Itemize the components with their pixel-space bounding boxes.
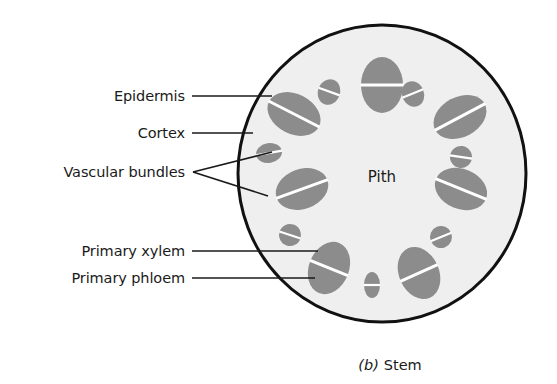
label-primary-phloem: Primary phloem — [71, 270, 185, 286]
pith-label: Pith — [368, 168, 396, 186]
label-cortex: Cortex — [138, 125, 185, 141]
caption-text: Stem — [384, 357, 422, 373]
caption-index: (b) — [358, 357, 379, 373]
label-vascular-bundles: Vascular bundles — [63, 164, 185, 180]
figure-caption: (b)Stem — [358, 357, 421, 373]
label-epidermis: Epidermis — [114, 88, 185, 104]
stem-diagram — [0, 0, 557, 384]
bundle-top — [361, 57, 404, 113]
bundle-small-bottom — [364, 272, 380, 298]
label-primary-xylem: Primary xylem — [81, 243, 185, 259]
stem-cross-section-figure: EpidermisCortexVascular bundlesPrimary x… — [0, 0, 557, 384]
